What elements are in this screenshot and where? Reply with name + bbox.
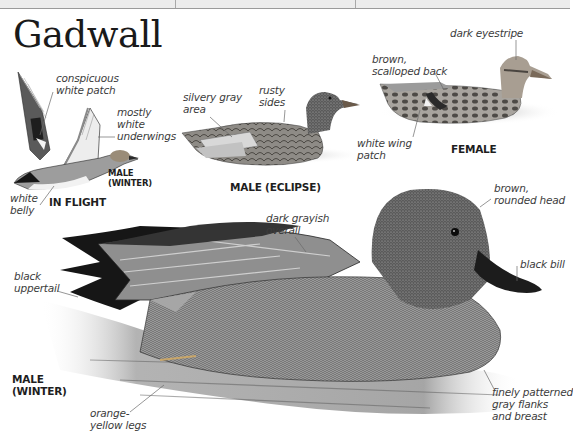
label-silvery-gray-area: silvery gray area xyxy=(183,91,242,115)
label-white-wing-patch: white wing patch xyxy=(357,137,412,161)
caption-male-eclipse: MALE (ECLIPSE) xyxy=(230,181,321,193)
caption-in-flight: IN FLIGHT xyxy=(49,196,106,208)
label-brown-scalloped-back: brown, scalloped back xyxy=(372,53,447,77)
label-rusty-sides: rusty sides xyxy=(259,84,285,108)
label-dark-eyestripe: dark eyestripe xyxy=(450,27,523,39)
label-conspicuous-white-patch: conspicuous white patch xyxy=(56,72,119,96)
caption-male-winter-flight: MALE (WINTER) xyxy=(108,168,152,188)
label-mostly-white-underwings: mostly white underwings xyxy=(117,106,176,142)
label-black-uppertail: black uppertail xyxy=(14,270,59,294)
caption-male-winter: MALE (WINTER) xyxy=(12,373,67,397)
label-brown-rounded-head: brown, rounded head xyxy=(494,182,565,206)
label-orange-yellow-legs: orange- yellow legs xyxy=(90,407,146,431)
label-finely-patterned-gray-flanks: finely patterned gray flanks and breast xyxy=(492,386,573,422)
label-white-belly: white belly xyxy=(10,192,38,216)
caption-female: FEMALE xyxy=(451,143,497,155)
label-black-bill: black bill xyxy=(520,258,565,270)
label-dark-grayish-overall: dark grayish overall xyxy=(266,212,329,236)
